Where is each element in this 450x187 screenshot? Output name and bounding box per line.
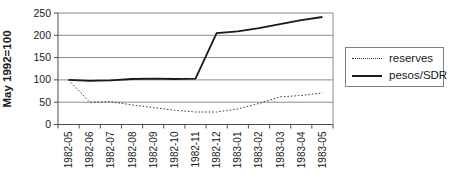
legend-label-reserves: reserves <box>389 53 433 65</box>
x-tick-label-1982-11: 1982-11 <box>190 131 201 167</box>
series-lines <box>69 17 323 112</box>
line-chart: 050100150200250 1982-051982-061982-07198… <box>0 0 450 187</box>
y-tick-label-200: 200 <box>33 29 51 41</box>
y-tick-label-100: 100 <box>33 73 51 85</box>
x-tick-label-1982-12: 1982-12 <box>211 131 222 168</box>
y-tick-label-150: 150 <box>33 51 51 63</box>
chart-figure: 050100150200250 1982-051982-061982-07198… <box>0 0 450 187</box>
x-tick-label-1982-10: 1982-10 <box>169 131 180 168</box>
dotted-line-sample-icon <box>352 58 382 59</box>
y-axis-title: May 1992=100 <box>1 30 13 107</box>
legend: reserves pesos/SDR <box>345 47 444 87</box>
x-tick-label-1983-05: 1983-05 <box>317 131 328 168</box>
x-tick-label-1982-09: 1982-09 <box>148 131 159 168</box>
x-tick-label-1982-07: 1982-07 <box>105 131 116 168</box>
x-tick-label-1983-02: 1983-02 <box>253 131 264 168</box>
legend-item-pesos-sdr: pesos/SDR <box>352 70 437 82</box>
legend-label-pesos-sdr: pesos/SDR <box>389 70 447 82</box>
x-tick-label-1983-04: 1983-04 <box>296 131 307 168</box>
series-line-reserves <box>69 80 323 112</box>
y-tick-label-0: 0 <box>45 118 51 130</box>
x-tick-label-1982-05: 1982-05 <box>63 131 74 168</box>
gridlines <box>58 13 333 125</box>
axes <box>54 13 333 129</box>
solid-line-sample-icon <box>352 75 382 77</box>
x-tick-label-1982-06: 1982-06 <box>84 131 95 168</box>
y-tick-label-50: 50 <box>39 96 51 108</box>
y-axis-tick-labels: 050100150200250 <box>33 7 51 131</box>
series-line-pesos-sdr <box>69 17 323 81</box>
x-axis-tick-labels: 1982-051982-061982-071982-081982-091982-… <box>63 131 328 168</box>
legend-item-reserves: reserves <box>352 53 437 65</box>
x-tick-label-1983-03: 1983-03 <box>275 131 286 168</box>
x-tick-label-1982-08: 1982-08 <box>127 131 138 168</box>
x-tick-label-1983-01: 1983-01 <box>232 131 243 168</box>
y-tick-label-250: 250 <box>33 7 51 19</box>
